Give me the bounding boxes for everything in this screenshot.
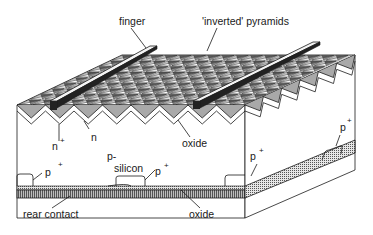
- label-p-plus-center-sup: +: [164, 161, 169, 170]
- label-p-plus-left: p: [45, 166, 51, 178]
- label-p-plus-top-right-sup: +: [347, 116, 352, 125]
- finger-right-contact: [193, 101, 200, 109]
- label-oxide-rear: oxide: [189, 208, 214, 220]
- label-n-plus: n: [52, 140, 58, 152]
- label-p-plus-top-right: p: [340, 121, 346, 133]
- label-p-plus-side: p: [250, 150, 256, 162]
- finger-left-contact: [50, 101, 57, 110]
- rear-oxide-layer: [17, 186, 245, 190]
- rear-contact-layer: [17, 190, 245, 198]
- label-p-plus-side-sup: +: [259, 146, 264, 155]
- pyramids-leader: [207, 28, 217, 51]
- label-p-minus: p-: [107, 150, 117, 162]
- label-p-plus-center: p: [155, 165, 161, 177]
- diagram-canvas: finger 'inverted' pyramids n + n oxide p…: [0, 0, 373, 235]
- label-n: n: [91, 131, 97, 143]
- label-silicon: silicon: [114, 162, 143, 174]
- label-inverted-pyramids: 'inverted' pyramids: [202, 15, 289, 27]
- label-finger: finger: [119, 15, 146, 27]
- finger-leader: [131, 28, 146, 48]
- label-oxide-front: oxide: [182, 137, 207, 149]
- perl-cell-diagram: finger 'inverted' pyramids n + n oxide p…: [0, 0, 373, 235]
- label-p-plus-left-sup: +: [58, 160, 63, 169]
- label-rear-contact: rear contact: [23, 208, 79, 220]
- label-n-plus-sup: +: [60, 136, 65, 145]
